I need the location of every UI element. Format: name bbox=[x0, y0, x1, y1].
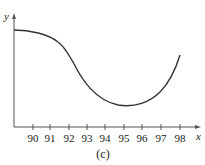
x-tick-label: 96 bbox=[137, 132, 149, 144]
x-tick-label: 92 bbox=[64, 132, 75, 144]
x-tick-label: 95 bbox=[119, 132, 131, 144]
figure-caption: (c) bbox=[96, 147, 109, 161]
chart-figure: 90 91 92 93 94 95 96 97 98 y x (c) bbox=[0, 0, 205, 165]
x-axis-arrow-icon bbox=[195, 125, 201, 129]
x-tick-label: 93 bbox=[82, 132, 94, 144]
x-tick-label: 91 bbox=[45, 132, 56, 144]
x-tick-label: 97 bbox=[156, 132, 168, 144]
data-curve bbox=[14, 30, 180, 106]
y-axis-arrow-icon bbox=[12, 13, 16, 19]
x-axis-label: x bbox=[195, 130, 201, 142]
x-tick-label: 90 bbox=[28, 132, 40, 144]
x-tick-label: 94 bbox=[100, 132, 112, 144]
y-axis-label: y bbox=[3, 10, 9, 22]
x-tick-label: 98 bbox=[175, 132, 187, 144]
